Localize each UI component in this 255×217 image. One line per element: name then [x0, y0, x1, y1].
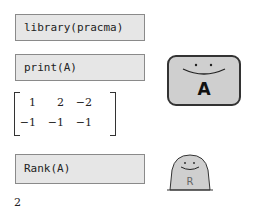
code-cell-print: print(A) [15, 54, 145, 81]
matrix-cell: −1 [64, 116, 92, 129]
code-text: library(pracma) [24, 21, 123, 34]
code-cell-library: library(pracma) [15, 14, 145, 41]
matrix-cell: −1 [14, 116, 36, 129]
matrix-row: 1 2 −2 [14, 96, 116, 109]
code-text: Rank(A) [24, 162, 70, 175]
matrix-cell: −1 [36, 116, 64, 129]
rank-result: 2 [14, 196, 21, 209]
matrix-output: 1 2 −2 −1 −1 −1 [14, 92, 116, 136]
matrix-cell: 2 [36, 96, 64, 109]
svg-text:R: R [187, 176, 194, 187]
matrix-row: −1 −1 −1 [14, 116, 116, 129]
matrix-cell: −2 [64, 96, 92, 109]
smile-face-icon [169, 57, 239, 77]
a-letter: A [169, 79, 239, 99]
code-text: print(A) [24, 61, 77, 74]
code-cell-rank: Rank(A) [15, 154, 145, 184]
r-mascot-icon: R [167, 152, 213, 192]
a-character-card: A [167, 55, 241, 106]
matrix-cell: 1 [14, 96, 36, 109]
